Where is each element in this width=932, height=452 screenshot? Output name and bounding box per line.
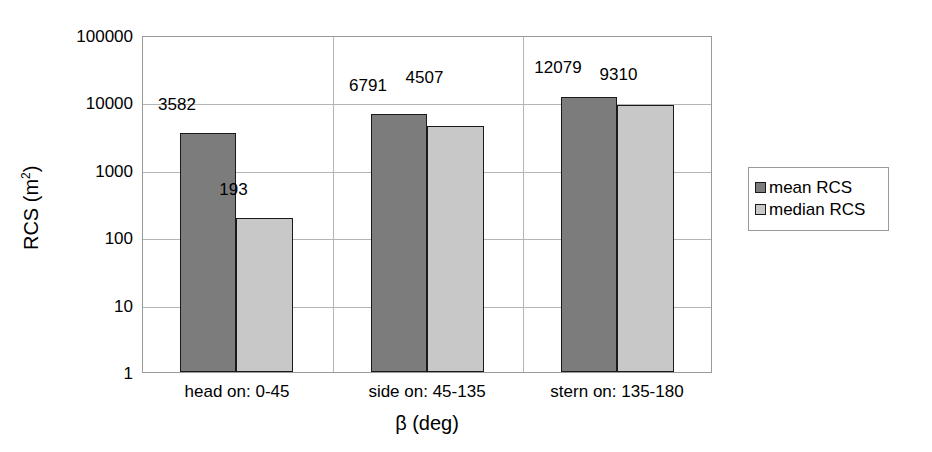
value-label-median-side-on: 4507 [396, 69, 453, 86]
chart-root: 100000 10000 1000 100 10 1 RCS (m2) [0, 0, 932, 452]
legend-label-mean-rcs: mean RCS [769, 178, 852, 198]
bar-median-head-on[interactable] [236, 218, 293, 372]
y-axis-title: RCS (m2) [19, 128, 43, 288]
value-label-mean-head-on: 3582 [149, 96, 205, 113]
value-label-mean-side-on: 6791 [340, 77, 396, 94]
value-label-median-head-on: 193 [205, 181, 262, 198]
category-label-side-on: side on: 45-135 [332, 382, 522, 402]
legend-label-median-rcs: median RCS [769, 200, 865, 220]
y-axis-title-text: RCS (m [20, 179, 42, 250]
category-label-stern-on: stern on: 135-180 [522, 382, 712, 402]
bar-median-side-on[interactable] [427, 126, 484, 372]
x-axis-title: β (deg) [142, 412, 712, 435]
legend-swatch-mean-icon [755, 182, 766, 193]
bar-mean-stern-on[interactable] [561, 97, 617, 372]
y-tick-100000: 100000 [3, 28, 133, 45]
bar-mean-head-on[interactable] [180, 133, 236, 373]
group-separator-2 [523, 37, 524, 372]
y-axis-title-exponent: 2 [19, 172, 33, 179]
legend-item-median-rcs[interactable]: median RCS [755, 199, 882, 220]
legend-item-mean-rcs[interactable]: mean RCS [755, 177, 882, 198]
bar-mean-side-on[interactable] [371, 114, 427, 372]
legend-swatch-median-icon [755, 204, 766, 215]
y-tick-1: 1 [3, 365, 133, 382]
value-label-mean-stern-on: 12079 [527, 59, 589, 76]
value-label-median-stern-on: 9310 [590, 66, 647, 83]
category-label-head-on: head on: 0-45 [142, 382, 332, 402]
y-tick-10000: 10000 [3, 95, 133, 112]
y-tick-10: 10 [3, 297, 133, 314]
bar-median-stern-on[interactable] [617, 105, 674, 373]
y-axis-title-tail: ) [20, 166, 42, 173]
legend: mean RCS median RCS [748, 167, 889, 231]
group-separator-1 [333, 37, 334, 372]
